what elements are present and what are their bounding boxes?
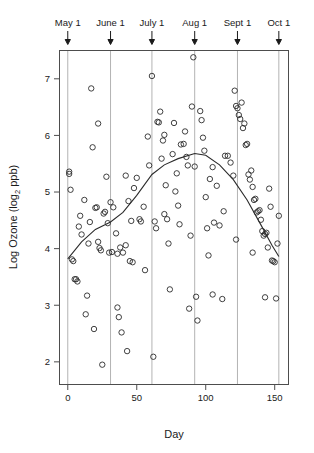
y-tick-label-4: 4: [45, 243, 50, 254]
data-point: [244, 141, 249, 146]
data-point: [228, 160, 233, 165]
data-point: [249, 168, 254, 173]
data-point: [200, 135, 205, 140]
x-tick-label-150: 150: [267, 392, 283, 403]
data-point: [123, 173, 128, 178]
month-marker-label-1: June 1: [96, 17, 125, 28]
data-point: [69, 257, 74, 262]
data-point: [159, 156, 164, 161]
data-point: [232, 88, 237, 93]
data-point: [185, 163, 190, 168]
month-marker-label-2: July 1: [140, 17, 165, 28]
data-point: [247, 177, 252, 182]
month-marker-label-4: Sept 1: [224, 17, 251, 28]
data-point: [162, 132, 167, 137]
data-point: [100, 362, 105, 367]
data-point: [268, 204, 273, 209]
y-tick-label-3: 3: [45, 300, 50, 311]
data-point: [145, 134, 150, 139]
data-point: [191, 55, 196, 60]
data-point: [253, 196, 258, 201]
chart-canvas: May 1June 1July 1Aug 1Sept 1Oct 1 234567…: [0, 0, 314, 453]
y-tick-label-6: 6: [45, 130, 50, 141]
data-point: [158, 109, 163, 114]
data-point: [163, 183, 168, 188]
data-point: [90, 145, 95, 150]
x-axis: 050100150: [65, 385, 283, 404]
data-point: [123, 243, 128, 248]
data-point: [193, 294, 198, 299]
month-marker-arrowhead-2: [149, 40, 154, 45]
data-point: [115, 305, 120, 310]
top-month-markers: May 1June 1July 1Aug 1Sept 1Oct 1: [55, 17, 290, 45]
data-point: [71, 258, 76, 263]
data-point: [211, 220, 216, 225]
data-point: [175, 203, 180, 208]
month-marker-label-3: Aug 1: [182, 17, 207, 28]
data-point: [160, 138, 165, 143]
data-point: [171, 120, 176, 125]
data-point: [195, 318, 200, 323]
data-point: [95, 239, 100, 244]
data-point: [250, 250, 255, 255]
month-marker-arrowhead-3: [192, 40, 197, 45]
data-point: [170, 151, 175, 156]
data-point: [206, 253, 211, 258]
data-point: [265, 245, 270, 250]
data-point: [214, 183, 219, 188]
y-tick-label-5: 5: [45, 186, 50, 197]
data-point: [115, 251, 120, 256]
data-point: [173, 189, 178, 194]
plot-gridlines: [68, 51, 279, 385]
x-tick-label-50: 50: [131, 392, 142, 403]
data-point: [68, 187, 73, 192]
data-point: [95, 121, 100, 126]
x-axis-title: Day: [164, 428, 184, 440]
data-point: [262, 295, 267, 300]
data-point: [220, 296, 225, 301]
data-point: [119, 330, 124, 335]
data-point: [102, 209, 107, 214]
ozone-scatter-figure: May 1June 1July 1Aug 1Sept 1Oct 1 234567…: [0, 0, 314, 453]
y-tick-label-7: 7: [45, 73, 50, 84]
plot-frame: [60, 51, 289, 385]
y-tick-label-2: 2: [45, 356, 50, 367]
data-point: [210, 292, 215, 297]
data-point: [111, 205, 116, 210]
data-point: [198, 108, 203, 113]
y-axis: 234567: [45, 73, 60, 367]
data-point: [124, 348, 129, 353]
data-point: [221, 209, 226, 214]
data-point: [275, 241, 280, 246]
data-point: [91, 326, 96, 331]
x-tick-label-100: 100: [198, 392, 214, 403]
data-point: [118, 245, 123, 250]
data-point: [151, 354, 156, 359]
data-point: [177, 222, 182, 227]
data-point: [131, 185, 136, 190]
data-point: [89, 86, 94, 91]
data-point: [233, 237, 238, 242]
data-points: [66, 55, 281, 368]
data-point: [77, 213, 82, 218]
data-point: [129, 218, 134, 223]
data-point: [83, 312, 88, 317]
y-axis-title: Log Ozone (log2 ppb): [7, 165, 22, 269]
data-point: [152, 219, 157, 224]
data-point: [120, 250, 125, 255]
data-point: [203, 194, 208, 199]
month-marker-label-5: Oct 1: [267, 17, 290, 28]
data-point: [266, 186, 271, 191]
data-point: [146, 163, 151, 168]
data-point: [101, 211, 106, 216]
data-point: [84, 293, 89, 298]
data-point: [164, 217, 169, 222]
month-marker-arrowhead-5: [276, 40, 281, 45]
data-point: [116, 314, 121, 319]
x-tick-label-0: 0: [65, 392, 70, 403]
data-point: [199, 117, 204, 122]
data-point: [142, 267, 147, 272]
data-point: [239, 100, 244, 105]
data-point: [86, 241, 91, 246]
month-marker-label-0: May 1: [55, 17, 81, 28]
